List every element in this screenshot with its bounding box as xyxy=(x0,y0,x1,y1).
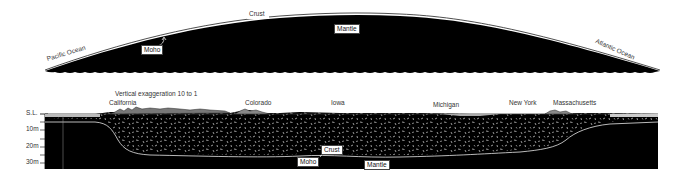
state-label-iowa: Iowa xyxy=(331,100,345,107)
state-label-colorado: Colorado xyxy=(245,100,271,107)
lower-section xyxy=(40,107,658,169)
state-label-massachusetts: Massachusetts xyxy=(553,100,596,107)
state-label-california: California xyxy=(109,100,136,107)
colorado-relief xyxy=(235,109,270,114)
state-label-new-york: New York xyxy=(509,100,536,107)
depth-label-30m: 30m xyxy=(26,159,39,166)
depth-label-10m: 10m xyxy=(26,126,39,133)
lower-mantle-label: Mantle xyxy=(364,160,390,170)
upper-profile xyxy=(45,10,660,73)
vertical-exaggeration-caption: Vertical exaggeration 10 to 1 xyxy=(115,91,197,98)
california-relief xyxy=(110,107,230,114)
depth-label-sea-level: S.L. xyxy=(26,110,38,117)
upper-moho-label: Moho xyxy=(141,45,163,55)
state-label-michigan: Michigan xyxy=(433,102,459,109)
lower-moho-label: Moho xyxy=(297,157,319,167)
lower-crust-label: Crust xyxy=(321,145,343,155)
upper-crust-label: Crust xyxy=(249,11,265,18)
depth-label-20m: 20m xyxy=(26,143,39,150)
upper-mantle-label: Mantle xyxy=(334,24,360,34)
massachusetts-relief xyxy=(545,110,572,114)
